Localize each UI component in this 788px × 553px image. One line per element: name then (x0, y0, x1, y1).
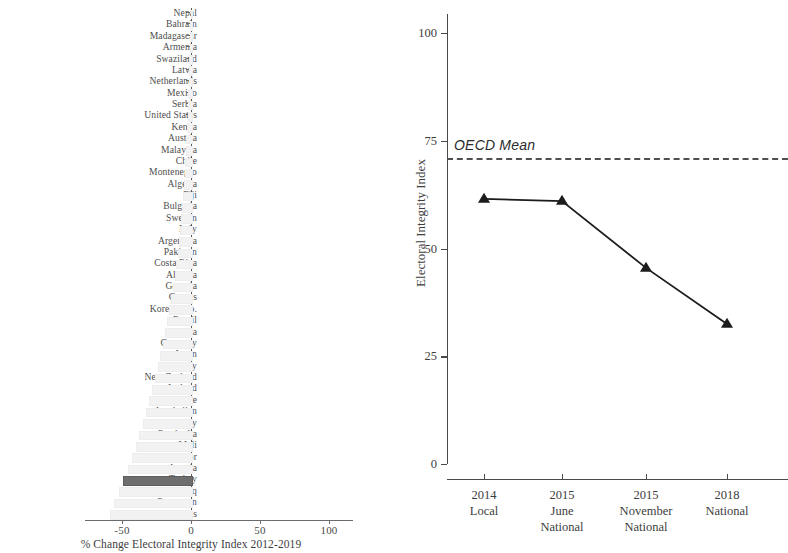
x-axis-tick-label: 50 (254, 524, 265, 536)
oecd-mean-label: OECD Mean (454, 137, 535, 153)
x-axis-tick-label: 0 (188, 524, 194, 536)
bar-category-label: Latvia (172, 64, 197, 75)
data-point-marker (640, 262, 652, 272)
x-axis-tick-label: -50 (114, 524, 129, 536)
left-bar-chart-panel: NepalBahrainMadagascarArmeniaSwazilandLa… (0, 0, 390, 553)
bar-category-label: Serbia (172, 98, 197, 109)
x-axis-tick-label: 100 (320, 524, 337, 536)
right-chart-y-axis-title: Electoral Integrity Index (413, 108, 429, 338)
data-point-marker (721, 318, 733, 328)
bar-row: Honduras (0, 509, 390, 520)
bar-axis-tick (186, 12, 190, 13)
figure-container: NepalBahrainMadagascarArmeniaSwazilandLa… (0, 0, 788, 553)
bar (110, 510, 193, 520)
data-point-marker (478, 193, 490, 203)
bar-category-label: Kenya (171, 121, 197, 132)
left-chart-axis-title: % Change Electoral Integrity Index 2012-… (81, 538, 302, 550)
right-line-chart-panel: 0255075100 2014Local2015JuneNational2015… (390, 0, 788, 553)
oecd-mean-line (447, 158, 788, 160)
left-chart-x-axis (85, 520, 353, 521)
right-chart-series-line (390, 0, 788, 553)
data-point-marker (556, 195, 568, 205)
